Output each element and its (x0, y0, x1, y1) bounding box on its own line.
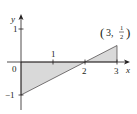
shaded-region-negative (21, 62, 85, 95)
svg-text:(: ( (100, 25, 104, 40)
y-tick-label-neg1: −1 (5, 90, 15, 100)
x-tick-label-3: 3 (114, 66, 119, 76)
origin-label: 0 (12, 64, 17, 74)
svg-text:): ) (126, 25, 130, 40)
svg-text:2: 2 (120, 33, 123, 40)
x-axis-label: x (125, 65, 130, 75)
x-tick-label-1: 1 (51, 49, 56, 59)
graph: y x 0 1 2 3 1 −1 ( 3, 1 2 ) (0, 0, 137, 114)
x-tick-label-2: 2 (82, 66, 87, 76)
svg-text:1: 1 (120, 24, 123, 31)
y-tick-label-1: 1 (13, 24, 18, 34)
shaded-region-positive (85, 46, 117, 63)
svg-text:3,: 3, (106, 27, 114, 38)
y-axis-label: y (10, 14, 15, 24)
point-annotation: ( 3, 1 2 ) (100, 24, 130, 40)
